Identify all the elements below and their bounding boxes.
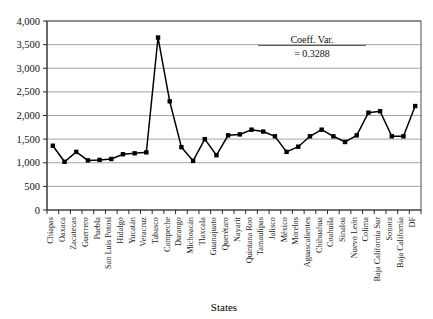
x-axis-category-label: Chiapas xyxy=(46,217,55,244)
line-chart: 05001,0001,5002,0002,5003,0003,5004,000 … xyxy=(0,0,433,319)
x-axis-category-label: Colima xyxy=(361,217,370,242)
data-point-marker xyxy=(378,109,382,113)
data-point-marker xyxy=(319,127,323,131)
data-point-marker xyxy=(214,153,218,157)
data-point-markers xyxy=(51,35,418,164)
data-point-marker xyxy=(296,144,300,148)
data-point-marker xyxy=(179,145,183,149)
data-point-marker xyxy=(390,134,394,138)
data-series-line xyxy=(53,38,415,162)
data-point-marker xyxy=(121,152,125,156)
gridlines xyxy=(47,21,421,210)
data-point-marker xyxy=(203,137,207,141)
x-axis-category-label: Chihuahua xyxy=(315,217,324,253)
x-axis-title: States xyxy=(211,301,237,313)
data-point-marker xyxy=(144,150,148,154)
x-axis-category-labels: ChiapasOaxacaZacatecasGuerreroPueblaSan … xyxy=(46,216,417,281)
x-axis-category-label: Campeche xyxy=(163,217,172,252)
x-axis-ticks xyxy=(47,210,421,214)
x-axis-category-label: Baja California Sur xyxy=(373,217,382,282)
y-axis-tick-label: 0 xyxy=(35,205,40,216)
x-axis-category-label: Oaxaca xyxy=(58,217,67,242)
data-point-marker xyxy=(168,99,172,103)
x-axis-category-label: Aguascalientes xyxy=(303,217,312,267)
y-axis-labels: 05001,0001,5002,0002,5003,0003,5004,000 xyxy=(16,16,40,216)
data-point-marker xyxy=(86,158,90,162)
data-point-marker xyxy=(74,150,78,154)
x-axis-category-label: Baja California xyxy=(396,217,405,268)
y-axis-tick-label: 2,500 xyxy=(16,86,40,97)
x-axis-category-label: Sinaloa xyxy=(338,217,347,242)
x-axis-category-label: Guerrero xyxy=(81,217,90,247)
data-point-marker xyxy=(284,150,288,154)
data-point-marker xyxy=(191,159,195,163)
data-point-marker xyxy=(355,133,359,137)
x-axis-category-label: Jalisco xyxy=(268,217,277,240)
data-point-marker xyxy=(238,132,242,136)
y-axis-tick-label: 500 xyxy=(24,181,40,192)
y-axis-tick-label: 3,500 xyxy=(16,39,40,50)
x-axis-category-label: Tamaulipas xyxy=(256,217,265,255)
x-axis-category-label: Zacatecas xyxy=(69,217,78,250)
x-axis-category-label: México xyxy=(280,217,289,242)
coefficient-variation-label: Coeff. Var. xyxy=(290,34,333,45)
x-axis-category-label: Tabasco xyxy=(151,217,160,244)
x-axis-category-label: San Luis Potosí xyxy=(104,216,113,269)
x-axis-category-label: Nuevo León xyxy=(350,216,359,258)
data-point-marker xyxy=(261,129,265,133)
x-axis-category-label: Michoacán xyxy=(186,216,195,254)
data-point-marker xyxy=(401,134,405,138)
data-point-marker xyxy=(97,158,101,162)
data-point-marker xyxy=(413,104,417,108)
data-point-marker xyxy=(343,140,347,144)
chart-container: 05001,0001,5002,0002,5003,0003,5004,000 … xyxy=(0,0,433,319)
data-point-marker xyxy=(156,35,160,39)
y-axis-ticks xyxy=(43,21,47,210)
data-point-marker xyxy=(308,134,312,138)
x-axis-category-label: DF xyxy=(408,217,417,228)
x-axis-category-label: Querétaro xyxy=(221,217,230,250)
x-axis-category-label: Quintana Roo xyxy=(245,217,254,263)
x-axis-category-label: Veracruz xyxy=(139,217,148,247)
y-axis-tick-label: 4,000 xyxy=(16,16,40,27)
x-axis-category-label: Coahuila xyxy=(326,217,335,247)
y-axis-tick-label: 1,000 xyxy=(16,157,40,168)
x-axis-category-label: Nayarit xyxy=(233,216,242,242)
data-point-marker xyxy=(109,157,113,161)
data-point-marker xyxy=(62,160,66,164)
x-axis-category-label: Hidalgo xyxy=(116,217,125,244)
data-point-marker xyxy=(51,144,55,148)
data-point-marker xyxy=(132,151,136,155)
data-point-marker xyxy=(249,127,253,131)
coefficient-variation-value: = 0.3288 xyxy=(294,48,330,59)
data-point-marker xyxy=(273,134,277,138)
data-point-marker xyxy=(226,133,230,137)
x-axis-category-label: Yucatán xyxy=(128,216,137,244)
data-point-marker xyxy=(366,110,370,114)
x-axis-category-label: Puebla xyxy=(93,217,102,240)
y-axis-tick-label: 1,500 xyxy=(16,134,40,145)
x-axis-category-label: Guanajuato xyxy=(209,217,218,255)
data-point-marker xyxy=(331,134,335,138)
y-axis-tick-label: 2,000 xyxy=(16,110,40,121)
x-axis-category-label: Sonora xyxy=(385,217,394,241)
y-axis-tick-label: 3,000 xyxy=(16,63,40,74)
x-axis-category-label: Durango xyxy=(174,217,183,246)
x-axis-category-label: Tlaxcala xyxy=(198,217,207,246)
x-axis-category-label: Morelos xyxy=(291,217,300,245)
